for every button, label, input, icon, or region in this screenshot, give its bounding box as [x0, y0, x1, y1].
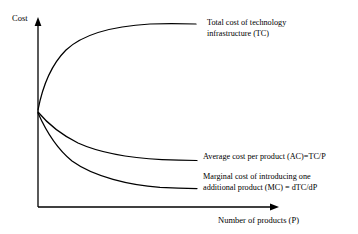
series-label-mc-line1: Marginal cost of introducing one — [203, 172, 317, 183]
series-label-tc: Total cost of technology infrastructure … — [207, 18, 286, 39]
series-label-tc-line2: infrastructure (TC) — [207, 29, 286, 40]
series-label-ac: Average cost per product (AC)=TC/P — [203, 152, 326, 163]
series-line-tc — [38, 24, 196, 110]
series-line-ac — [38, 112, 197, 161]
series-label-ac-line1: Average cost per product (AC)=TC/P — [203, 152, 326, 163]
series-label-mc-line2: additional product (MC) = dTC/dP — [203, 183, 317, 194]
series-line-mc — [38, 113, 197, 189]
y-axis-arrowhead — [35, 17, 42, 26]
x-axis-arrowhead — [270, 204, 279, 211]
y-axis-title: Cost — [12, 14, 28, 24]
series-label-tc-line1: Total cost of technology — [207, 18, 286, 29]
chart-figure: Cost Number of products (P) Total cost o… — [0, 0, 358, 234]
series-label-mc: Marginal cost of introducing one additio… — [203, 172, 317, 193]
x-axis-title: Number of products (P) — [218, 216, 299, 226]
chart-plot-area — [0, 0, 358, 234]
